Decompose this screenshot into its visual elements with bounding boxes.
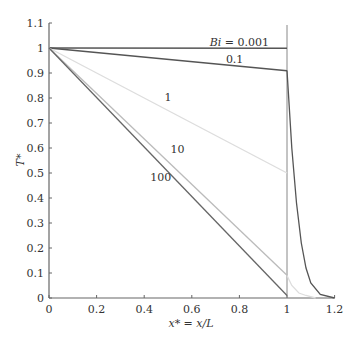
x-tick-label: 0.2	[88, 303, 106, 316]
curve-label: 10	[171, 143, 185, 156]
y-tick-label: 1	[37, 42, 44, 55]
y-tick-label: 0	[37, 292, 44, 305]
x-tick-label: 0.6	[183, 303, 201, 316]
y-tick-label: 0.5	[27, 167, 45, 180]
y-tick-label: 0.4	[27, 192, 45, 205]
y-tick-label: 1.1	[27, 17, 45, 30]
y-tick-label: 0.7	[27, 117, 45, 130]
x-tick-label: 0.8	[231, 303, 249, 316]
x-tick-label: 1	[284, 303, 291, 316]
y-axis-title: T*	[14, 153, 27, 166]
series-line	[287, 276, 316, 299]
y-tick-label: 0.2	[27, 242, 45, 255]
y-tick-label: 0.9	[27, 67, 45, 80]
y-axis: 00.10.20.30.40.50.60.70.80.911.1	[27, 17, 53, 305]
y-tick-label: 0.6	[27, 142, 45, 155]
plot-area	[49, 25, 335, 298]
y-tick-label: 0.1	[27, 267, 45, 280]
curve-label: Bi = 0.001	[209, 36, 269, 49]
x-axis: 00.20.40.60.811.2	[46, 295, 344, 316]
x-tick-label: 0	[46, 303, 53, 316]
curve-label: 1	[165, 91, 172, 104]
series-line	[49, 48, 287, 275]
curve-label: 100	[150, 171, 171, 184]
x-tick-label: 0.4	[135, 303, 153, 316]
y-tick-label: 0.3	[27, 217, 45, 230]
chart: 00.10.20.30.40.50.60.70.80.911.1 00.20.4…	[0, 0, 359, 339]
series-line	[287, 71, 335, 299]
y-tick-label: 0.8	[27, 92, 45, 105]
x-tick-label: 1.2	[326, 303, 344, 316]
x-axis-title: x* = x/L	[168, 317, 213, 330]
curve-label: 0.1	[226, 53, 244, 66]
